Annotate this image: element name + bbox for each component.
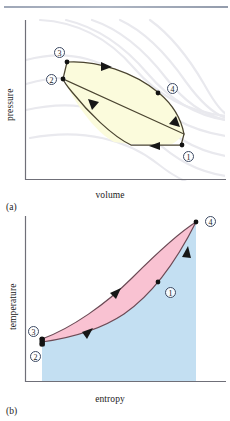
y-axis-label-pressure: pressure [5,73,15,121]
x-axis-label-entropy: entropy [78,394,142,404]
state-label-3: 3 [28,326,39,337]
state-label-4: 4 [205,216,216,227]
y-axis-label-temperature: temperature [8,260,18,330]
ts-diagram-svg [0,208,230,421]
page-top-rule [4,6,228,8]
figure-b-temperature-entropy: 4 1 3 2 temperature entropy (b) [0,208,230,421]
state-point-2-3-merged [40,337,45,347]
x-axis-label-volume: volume [75,190,145,200]
state-point-2 [61,77,66,82]
state-point-3 [65,60,70,65]
state-point-4 [156,91,161,96]
state-point-4 [194,220,199,225]
state-label-3: 3 [54,47,65,58]
state-label-1: 1 [183,151,194,162]
cycle-area-fill [65,62,184,145]
panel-caption-b: (b) [6,406,17,416]
state-label-1: 1 [165,287,176,298]
figure-page: 3 2 4 1 pressure volume (a) [0,0,230,421]
figure-a-pressure-volume: 3 2 4 1 pressure volume (a) [0,14,230,210]
state-label-2: 2 [30,351,41,362]
state-point-1 [156,280,161,285]
state-point-1 [180,143,185,148]
state-label-2: 2 [46,74,57,85]
pv-diagram-svg [0,14,230,210]
state-label-4: 4 [167,83,178,94]
